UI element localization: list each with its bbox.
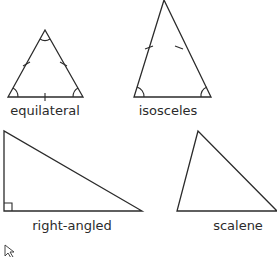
scalene-triangle <box>177 131 277 211</box>
right-angled-label: right-angled <box>32 219 112 232</box>
equilateral-label: equilateral <box>10 104 80 117</box>
angle-arc <box>201 87 207 97</box>
angle-arc <box>73 88 78 97</box>
mouse-pointer-icon <box>5 245 14 257</box>
isosceles-label: isosceles <box>139 104 198 117</box>
isosceles-triangle <box>134 0 211 97</box>
angle-arc <box>137 87 144 97</box>
right-angle-marker <box>4 203 12 211</box>
right-angled-triangle <box>4 131 142 211</box>
equal-side-tick <box>175 46 183 49</box>
angle-arc <box>40 39 50 41</box>
angle-arc <box>13 88 18 97</box>
scalene-label: scalene <box>213 219 263 232</box>
equilateral-triangle <box>8 30 83 101</box>
